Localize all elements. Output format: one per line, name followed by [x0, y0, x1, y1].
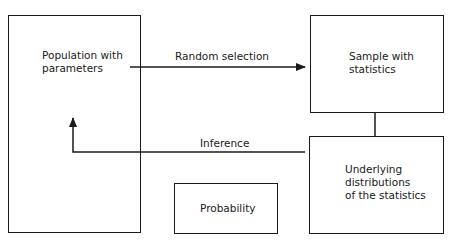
distributions-label: Underlying distributions of the statisti… — [345, 163, 426, 202]
random-selection-label: Random selection — [175, 50, 269, 63]
probability-label: Probability — [200, 202, 256, 215]
population-box-lower — [8, 108, 141, 233]
population-label: Population with parameters — [42, 49, 123, 75]
sample-label: Sample with statistics — [349, 50, 414, 76]
inference-label: Inference — [200, 137, 249, 150]
